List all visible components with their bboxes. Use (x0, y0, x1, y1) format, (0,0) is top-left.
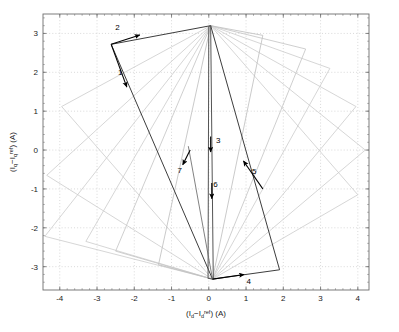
x-tick-1: 1 (244, 294, 249, 303)
trajectory-lines (45, 26, 365, 279)
figure-canvas: -4-3-2-101234 3210-1-2-3 1234567 (Id−Idr… (0, 0, 399, 332)
segment-label-6: 6 (213, 180, 218, 189)
y-axis-label: (Iq−Iqref) (A) (8, 132, 18, 172)
phase-plane-chart: -4-3-2-101234 3210-1-2-3 1234567 (Id−Idr… (0, 0, 399, 332)
x-tick-4: 4 (356, 294, 361, 303)
arrow-7 (183, 150, 190, 165)
direction-arrows (111, 35, 263, 279)
trajectory-loop-1-outermost (62, 26, 358, 279)
y-tick--3: -3 (31, 263, 39, 272)
y-tick-1: 1 (34, 107, 39, 116)
svg-text:(Iq−Iqref) (A): (Iq−Iqref) (A) (8, 132, 18, 172)
y-tick-3: 3 (34, 29, 39, 38)
segment-label-2: 2 (115, 23, 120, 32)
x-tick-3: 3 (318, 294, 323, 303)
x-axis-tick-labels: -4-3-2-101234 (56, 294, 360, 303)
arrow-1 (111, 44, 127, 87)
x-tick-2: 2 (281, 294, 286, 303)
x-tick--2: -2 (131, 294, 139, 303)
y-tick--2: -2 (31, 224, 39, 233)
x-axis-title: (Id−Idref) (A) (186, 309, 226, 319)
trajectory-loop-7-dark-final (111, 26, 279, 279)
segment-label-5: 5 (252, 167, 257, 176)
trajectory-loop-3 (45, 26, 356, 279)
y-tick--1: -1 (31, 185, 39, 194)
y-tick-0: 0 (34, 146, 39, 155)
x-tick--4: -4 (56, 294, 64, 303)
segment-label-4: 4 (246, 277, 251, 286)
svg-text:(Id−Idref) (A): (Id−Idref) (A) (186, 309, 226, 319)
x-tick-0: 0 (207, 294, 212, 303)
y-axis-tick-labels: 3210-1-2-3 (31, 29, 39, 271)
segment-label-1: 1 (118, 68, 123, 77)
x-axis-label: (Id−Idref) (A) (186, 309, 226, 319)
x-tick--3: -3 (93, 294, 101, 303)
x-tick--1: -1 (168, 294, 176, 303)
segment-label-7: 7 (178, 166, 183, 175)
y-axis-title: (Iq−Iqref) (A) (8, 132, 18, 172)
y-tick-2: 2 (34, 68, 39, 77)
segment-label-3: 3 (216, 136, 221, 145)
